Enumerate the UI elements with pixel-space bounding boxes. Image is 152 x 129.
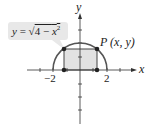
eq-radicand-num: 4 − <box>35 25 52 37</box>
point-bottom-right <box>95 68 100 73</box>
eq-exponent: 2 <box>57 24 61 32</box>
tick-label-neg2: −2 <box>44 72 56 84</box>
tick-label-pos2: 2 <box>104 72 110 84</box>
eq-sign: = <box>17 25 29 37</box>
point-P <box>95 47 100 52</box>
semicircle-diagram <box>0 0 152 129</box>
point-bottom-left <box>62 68 67 73</box>
x-axis-arrow-icon <box>131 68 137 72</box>
point-P-label: P (x, y) <box>100 35 135 50</box>
point-top-left <box>62 47 67 52</box>
y-axis-label: y <box>76 0 81 15</box>
inscribed-rectangle <box>64 49 97 70</box>
x-axis-label: x <box>139 62 144 77</box>
equation-label: y = √4 − x2 <box>12 24 60 37</box>
